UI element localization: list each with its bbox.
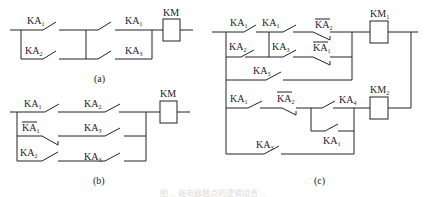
contact-ka1-no [43, 22, 56, 30]
panel-c: KA1 KA1 KA2 KA2 KA3 KA1 KA3 KM1 KA1 KA2 … [212, 8, 418, 187]
coil-km2 [370, 97, 388, 119]
label-ka4: KA4 [339, 94, 356, 106]
label-ka1: KA1 [27, 15, 44, 27]
label-coil-km: KM [160, 88, 176, 99]
label-ka1-nc: KA1 [313, 42, 330, 54]
label-ka1: KA1 [24, 98, 41, 110]
caption-a: (a) [94, 73, 105, 85]
contact-ka1-no [45, 104, 59, 112]
label-coil-km: KM [163, 7, 179, 18]
contact-ka2b-no [42, 152, 58, 161]
contact-ka2-nc [313, 32, 330, 40]
contact-ka3b-no [105, 153, 120, 161]
label-ka2-b: KA2 [20, 147, 37, 159]
label-ka3: KA3 [272, 41, 289, 53]
caption-b: (b) [93, 175, 105, 187]
contact-ka1-nc [313, 57, 330, 65]
figure-caption-faint: 图 ... 继电器触点的逻辑组合 ... [160, 188, 266, 197]
panel-a: KA1 KA2 KA1 KA3 KM (a) [10, 7, 193, 85]
label-ka2: KA2 [25, 45, 42, 57]
label-ka3: KA3 [125, 45, 142, 57]
label-ka1-nc: KA1 [22, 122, 39, 134]
label-coil-km2: KM2 [370, 84, 389, 96]
label-ka2: KA2 [84, 98, 101, 110]
contact-ka1b-no [283, 25, 296, 32]
label-ka1: KA1 [230, 17, 247, 29]
label-ka2-nc: KA2 [315, 19, 332, 31]
label-ka1-b: KA1 [262, 17, 279, 29]
panel-b: KA1 KA2 KA1 KA3 KA2 KA3 KM (b) [10, 88, 190, 187]
label-ka1-c: KA1 [230, 93, 247, 105]
contact-ka1d-no [325, 124, 338, 131]
contact-ka1-nc [42, 136, 58, 145]
contact-ka3-no [105, 128, 120, 136]
label-ka2: KA2 [229, 41, 246, 53]
contact-ka4-no [322, 101, 335, 108]
relay-logic-diagram: KA1 KA2 KA1 KA3 KM (a) KA1 KA2 K [0, 0, 426, 197]
label-ka3: KA3 [84, 122, 101, 134]
contact-ka3-no [98, 51, 111, 59]
coil-km1 [370, 21, 388, 43]
label-ka1-d: KA1 [323, 135, 340, 147]
caption-c: (c) [314, 175, 325, 187]
label-coil-km1: KM1 [370, 8, 389, 20]
contact-ka2-no [43, 51, 56, 59]
label-ka3-b: KA3 [84, 151, 101, 163]
contact-ka2-no [105, 104, 120, 112]
coil-km [163, 19, 180, 41]
label-ka1-right: KA1 [125, 15, 142, 27]
coil-km [160, 101, 177, 123]
label-ka3-c: KA3 [256, 139, 273, 151]
contact-ka2b-nc [282, 108, 296, 115]
contact-ka1c-no [248, 101, 262, 108]
label-ka3-b: KA3 [253, 65, 270, 77]
label-ka2-nc-b: KA2 [277, 93, 294, 105]
contact-ka1b-no [98, 22, 111, 30]
